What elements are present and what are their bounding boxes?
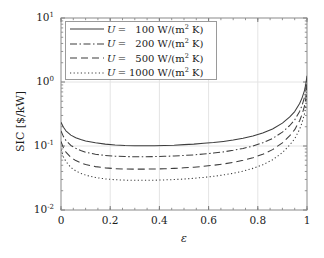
series-line-500: [61, 86, 307, 170]
x-tick-label: 0.6: [189, 214, 229, 226]
y-tick-label: 10-1: [0, 139, 54, 151]
legend-line-sample-dashdot: [69, 38, 105, 50]
legend-item-label: U=200 W/(m2 K): [107, 38, 203, 49]
legend-line-sample-dotted: [69, 67, 105, 79]
legend-item: U=1000 W/(m2 K): [66, 66, 216, 81]
y-tick-label: 101: [0, 11, 54, 23]
y-axis-title: SIC [$/kW]: [14, 91, 27, 152]
y-tick-label: 100: [0, 75, 54, 87]
legend-item: U=500 W/(m2 K): [66, 51, 216, 66]
legend-item-label: U=500 W/(m2 K): [107, 53, 203, 64]
legend-line-sample-dashed: [69, 52, 105, 64]
legend-item: U=100 W/(m2 K): [66, 22, 216, 37]
x-tick-label: 0.4: [139, 214, 179, 226]
legend-item-label: U=100 W/(m2 K): [107, 24, 203, 35]
legend-item-label: U=1000 W/(m2 K): [107, 67, 203, 78]
x-tick-label: 0: [41, 214, 81, 226]
legend-item: U=200 W/(m2 K): [66, 37, 216, 52]
series-line-100: [61, 76, 307, 146]
x-tick-label: 0.2: [90, 214, 130, 226]
data-series-group: [61, 76, 307, 181]
figure-container: 101 100 10-1 10-2 0 0.2 0.4 0.6 0.8 1 SI…: [0, 0, 324, 258]
x-tick-label: 1: [287, 214, 324, 226]
x-tick-label: 0.8: [238, 214, 278, 226]
legend-line-sample-solid: [69, 23, 105, 35]
x-axis-title: ε: [164, 232, 204, 245]
legend: U=100 W/(m2 K)U=200 W/(m2 K)U=500 W/(m2 …: [65, 21, 217, 80]
